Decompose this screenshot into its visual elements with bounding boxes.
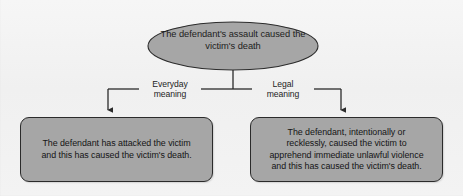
outcome-box-everyday: The defendant has attacked the victim an… — [20, 117, 213, 182]
branch-label-everyday-line-1: Everyday — [139, 79, 201, 89]
branch-label-everyday-line-2: meaning — [139, 89, 201, 99]
outcome-everyday-line-1: The defendant has attacked the victim — [41, 138, 191, 149]
root-node-label: The defendant's assault caused the victi… — [148, 29, 318, 52]
outcome-text-legal: The defendant, intentionally or reckless… — [264, 127, 428, 172]
outcome-legal-line-1: The defendant, intentionally or — [269, 127, 423, 138]
outcome-text-everyday: The defendant has attacked the victim an… — [36, 138, 196, 161]
outcome-legal-line-3: apprehend immediate unlawful violence — [269, 150, 423, 161]
outcome-everyday-line-2: and this has caused the victim's death. — [41, 150, 191, 161]
branch-label-legal-line-2: meaning — [252, 89, 314, 99]
diagram-canvas: The defendant's assault caused the victi… — [0, 0, 463, 196]
outcome-box-legal: The defendant, intentionally or reckless… — [250, 117, 443, 182]
branch-label-legal-line-1: Legal — [252, 79, 314, 89]
outcome-legal-line-2: recklessly, caused the victim to — [269, 138, 423, 149]
branch-label-legal: Legal meaning — [252, 79, 314, 100]
root-node-line-1: The defendant's assault caused — [161, 29, 291, 39]
branch-label-everyday: Everyday meaning — [139, 79, 201, 100]
outcome-legal-line-4: and this has caused the victim's death. — [269, 161, 423, 172]
